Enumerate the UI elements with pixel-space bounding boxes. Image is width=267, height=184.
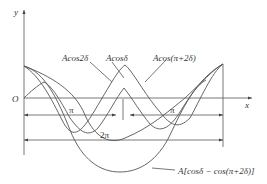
label-2pi: 2π xyxy=(100,130,110,140)
waveform-diagram: y x O Acos2δ Acosδ Acos(π+2δ) A[cosδ − c… xyxy=(0,0,267,184)
label-sum: A[cosδ − cos(π+2δ)] xyxy=(177,166,255,176)
leader-cos2d xyxy=(90,62,112,82)
leader-cosd xyxy=(112,62,124,78)
leader-sum xyxy=(152,168,175,170)
leader-cos-pi-2d xyxy=(145,60,166,82)
label-pi-right: π xyxy=(170,105,175,115)
y-axis-label: y xyxy=(13,7,18,17)
label-acos-delta: Acosδ xyxy=(105,53,128,63)
curve-acos-delta xyxy=(24,64,223,141)
label-acos-pi-2delta: Acos(π+2δ) xyxy=(152,53,196,63)
label-acos-2delta: Acos2δ xyxy=(61,53,89,63)
x-axis-label: x xyxy=(244,100,249,110)
origin-label: O xyxy=(12,94,19,104)
label-pi-left: π xyxy=(69,105,74,115)
